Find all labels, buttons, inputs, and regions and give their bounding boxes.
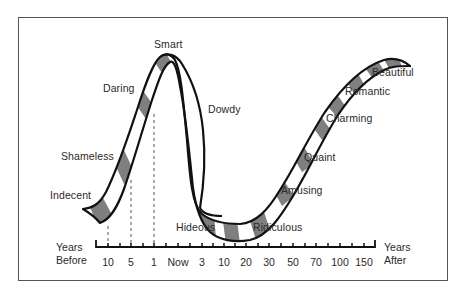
stage-label-charming: Charming bbox=[326, 112, 372, 124]
tick-label: 10 bbox=[218, 256, 230, 268]
tick-label: 20 bbox=[240, 256, 252, 268]
stage-label-romantic: Romantic bbox=[345, 85, 390, 97]
tick-label: 10 bbox=[102, 256, 114, 268]
tick-label-now: Now bbox=[167, 256, 188, 268]
stage-label-quaint: Quaint bbox=[304, 151, 336, 163]
stage-label-daring: Daring bbox=[103, 82, 135, 94]
stage-label-beautiful: Beautiful bbox=[372, 66, 414, 78]
stage-label-ridiculous: Ridiculous bbox=[253, 221, 302, 233]
tick-label: 30 bbox=[263, 256, 275, 268]
axis-label-years-after: Years After bbox=[384, 241, 410, 267]
stage-label-hideous: Hideous bbox=[176, 221, 215, 233]
tick-label: 3 bbox=[199, 256, 205, 268]
tick-label: 100 bbox=[331, 256, 349, 268]
axis-label-years-before: Years Before bbox=[56, 241, 87, 267]
fashion-timeline-diagram: Indecent Shameless Daring Smart Dowdy Hi… bbox=[0, 0, 466, 299]
tick-label: 150 bbox=[355, 256, 373, 268]
stage-label-amusing: Amusing bbox=[281, 184, 323, 196]
axis-label-years-before-line2: Before bbox=[56, 254, 87, 267]
stage-label-shameless: Shameless bbox=[61, 150, 114, 162]
tick-label: 5 bbox=[128, 256, 134, 268]
stage-label-smart: Smart bbox=[154, 38, 183, 50]
tick-label: 70 bbox=[310, 256, 322, 268]
tick-label: 50 bbox=[287, 256, 299, 268]
stage-label-dowdy: Dowdy bbox=[208, 103, 241, 115]
axis-label-years-before-line1: Years bbox=[56, 241, 87, 254]
tick-label: 1 bbox=[151, 256, 157, 268]
stage-label-indecent: Indecent bbox=[50, 189, 91, 201]
axis-label-years-after-line1: Years bbox=[384, 241, 410, 254]
axis-label-years-after-line2: After bbox=[384, 254, 410, 267]
